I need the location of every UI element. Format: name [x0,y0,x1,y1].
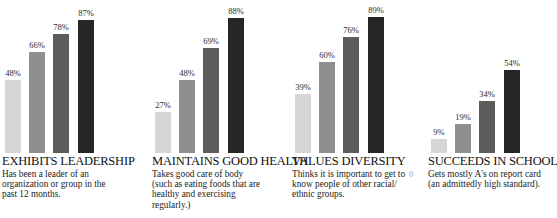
bar-value-label: 54% [504,58,520,68]
group-caption: SUCCEEDS IN SCHOOL Gets mostly A's on re… [428,155,557,189]
group-subtitle: Has been a leader of an organization or … [2,169,148,200]
bar-value-label: 9% [433,127,444,137]
subtitle-line: Gets mostly A's on report card [428,169,557,179]
chart-group-values-diversity: 39% 60% 76% 89% VALUES DIVERSITY [292,0,438,218]
bar[interactable]: 34% [479,101,495,153]
group-subtitle: Gets mostly A's on report card (an admit… [428,169,557,189]
bar[interactable]: 54% [504,70,520,153]
bar-value-label: 19% [455,112,471,122]
plot-area: 27% 48% 69% 88% [152,0,298,153]
subtitle-line: past 12 months. [2,189,148,199]
chart-group-maintains-good-health: 27% 48% 69% 88% MAINTAINS GOOD HEALTH [152,0,298,218]
subtitle-line: Has been a leader of an [2,169,148,179]
chart-group-succeeds-in-school: 9% 19% 34% 54% SUCCEEDS IN SCHOOL [428,0,557,218]
bar[interactable]: 78% [53,34,69,153]
bar-value-label: 60% [319,50,335,60]
bar[interactable]: 9% [431,139,447,153]
group-subtitle: Takes good care of body (such as eating … [152,169,298,210]
bar[interactable]: 66% [29,52,45,153]
bar[interactable]: 27% [155,112,171,153]
subtitle-line: organization or group in the [2,179,148,189]
group-subtitle: Thinks it is important to get to know pe… [292,169,438,200]
bar-value-label: 27% [155,100,171,110]
bar-value-label: 76% [343,25,359,35]
group-caption: EXHIBITS LEADERSHIP Has been a leader of… [2,155,148,200]
subtitle-line: (such as eating foods that are [152,179,298,189]
bar[interactable]: 76% [343,37,359,153]
subtitle-line: healthy and exercising [152,189,298,199]
chart-group-exhibits-leadership: 48% 66% 78% 87% EXHIBITS LEADERSHIP [2,0,148,218]
bar[interactable]: 48% [179,80,195,153]
group-title: EXHIBITS LEADERSHIP [2,155,148,168]
bar-value-label: 89% [368,5,384,15]
bar[interactable]: 87% [78,20,94,153]
subtitle-line: Thinks it is important to get to [292,169,438,179]
bar[interactable]: 48% [5,80,21,153]
subtitle-line: know people of other racial/ [292,179,438,189]
bar[interactable]: 19% [455,124,471,153]
bar-value-label: 69% [203,36,219,46]
bar-value-label: 78% [53,22,69,32]
bar-value-label: 48% [5,68,21,78]
group-title: MAINTAINS GOOD HEALTH [152,155,298,168]
bar[interactable]: 88% [228,18,244,153]
bar-value-label: 88% [228,6,244,16]
group-caption: MAINTAINS GOOD HEALTH Takes good care of… [152,155,298,210]
subtitle-line: (an admittedly high standard). [428,179,557,189]
bar-value-label: 39% [295,82,311,92]
group-caption: VALUES DIVERSITY Thinks it is important … [292,155,438,200]
group-title: VALUES DIVERSITY [292,155,438,168]
subtitle-line: regularly.) [152,200,298,210]
bar[interactable]: 89% [368,17,384,153]
bar-value-label: 48% [179,68,195,78]
subtitle-line: Takes good care of body [152,169,298,179]
bar[interactable]: 39% [295,94,311,153]
bar-value-label: 34% [479,89,495,99]
bar-value-label: 87% [78,8,94,18]
plot-area: 9% 19% 34% 54% [428,0,557,153]
bar-chart-figure: 0 48% 66% 78% 87% [0,0,557,218]
bar-value-label: 66% [29,40,45,50]
bar[interactable]: 69% [203,48,219,153]
group-title: SUCCEEDS IN SCHOOL [428,155,557,168]
bar[interactable]: 60% [319,62,335,153]
plot-area: 39% 60% 76% 89% [292,0,438,153]
plot-area: 48% 66% 78% 87% [2,0,148,153]
subtitle-line: ethnic groups. [292,189,438,199]
